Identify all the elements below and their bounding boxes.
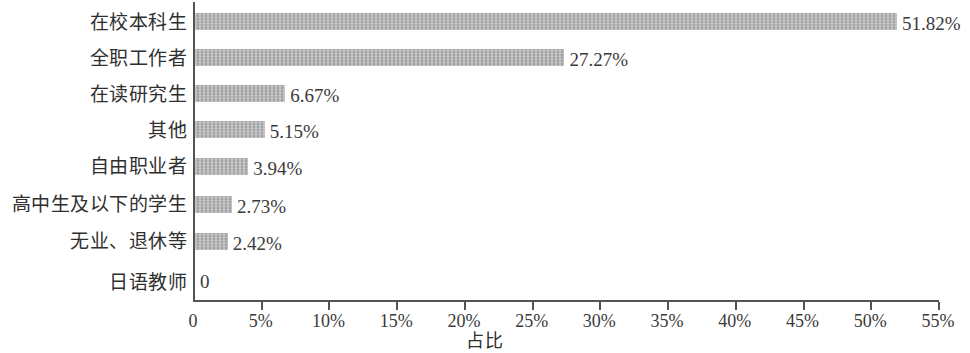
x-axis-tick-label: 10% (312, 312, 345, 330)
bar-value-label: 27.27% (569, 50, 628, 69)
bar (195, 85, 285, 102)
bar-value-label: 5.15% (270, 122, 319, 141)
x-axis-tick-label: 25% (515, 312, 548, 330)
bar (195, 233, 228, 250)
category-label: 全职工作者 (0, 49, 193, 68)
bar (195, 158, 248, 175)
category-label: 高中生及以下的学生 (0, 195, 193, 214)
x-axis-tick-label: 45% (786, 312, 819, 330)
bar-value-label: 6.67% (290, 86, 339, 105)
bar-value-label: 2.42% (233, 234, 282, 253)
x-axis-tick-label: 40% (718, 312, 751, 330)
x-axis-tick (328, 302, 330, 310)
x-axis-tick-label: 35% (651, 312, 684, 330)
x-axis-tick (599, 302, 601, 310)
x-axis-tick-label: 30% (583, 312, 616, 330)
category-label: 在校本科生 (0, 13, 193, 32)
category-label: 无业、退休等 (0, 232, 193, 251)
category-label: 自由职业者 (0, 157, 193, 176)
x-axis-tick (667, 302, 669, 310)
x-axis-tick-label: 55% (922, 312, 955, 330)
x-axis-tick-label: 50% (854, 312, 887, 330)
y-axis-line (193, 2, 195, 301)
category-label: 其他 (0, 121, 193, 140)
x-axis-tick-label: 5% (249, 312, 273, 330)
x-axis-tick-label: 20% (447, 312, 480, 330)
plot-area: 51.82%27.27%6.67%5.15%3.94%2.73%2.42%0 0… (193, 0, 970, 303)
x-axis-tick-label: 15% (380, 312, 413, 330)
x-axis-line (193, 300, 939, 302)
bar (195, 121, 265, 138)
bar-value-label: 51.82% (902, 14, 961, 33)
horizontal-bar-chart: 在校本科生 全职工作者 在读研究生 其他 自由职业者 高中生及以下的学生 无业、… (0, 0, 970, 353)
bar (195, 196, 232, 213)
category-axis-labels: 在校本科生 全职工作者 在读研究生 其他 自由职业者 高中生及以下的学生 无业、… (0, 0, 193, 300)
category-label: 日语教师 (0, 273, 193, 292)
x-axis-tick (464, 302, 466, 310)
x-axis-tick-label: 0 (189, 312, 198, 330)
x-axis-title: 占比 (0, 332, 970, 350)
x-axis-tick (938, 302, 940, 310)
bar-value-label: 3.94% (253, 159, 302, 178)
x-axis-tick (735, 302, 737, 310)
x-axis-tick (396, 302, 398, 310)
x-axis-tick (870, 302, 872, 310)
bar-value-label: 2.73% (237, 197, 286, 216)
x-axis-tick (803, 302, 805, 310)
bar (195, 49, 564, 66)
bar (195, 13, 897, 30)
category-label: 在读研究生 (0, 85, 193, 104)
x-axis-tick (261, 302, 263, 310)
x-axis-tick (532, 302, 534, 310)
bar-value-label: 0 (200, 272, 210, 291)
